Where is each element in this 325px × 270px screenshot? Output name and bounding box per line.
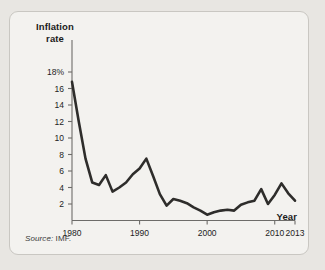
y-axis-tick-labels: 24681012141618% bbox=[47, 67, 64, 209]
chart-plot-area: Inflation rate Year 24681012141618% 1980… bbox=[10, 12, 310, 256]
y-tick-label: 10 bbox=[55, 133, 65, 143]
source-note: Source: IMF. bbox=[25, 234, 71, 243]
y-tick-label: 18% bbox=[47, 67, 64, 77]
source-note-body: IMF. bbox=[53, 234, 71, 243]
x-tick-label: 2013 bbox=[286, 228, 305, 238]
figure-card: Inflation rate Year 24681012141618% 1980… bbox=[9, 11, 309, 255]
y-tick-label: 16 bbox=[55, 84, 65, 94]
y-tick-label: 8 bbox=[59, 150, 64, 160]
x-tick-label: 2010 bbox=[265, 228, 284, 238]
x-axis-tick-labels: 19801990200020102013 bbox=[63, 228, 305, 238]
y-tick-label: 6 bbox=[59, 166, 64, 176]
y-tick-label: 14 bbox=[55, 100, 65, 110]
y-tick-label: 4 bbox=[59, 183, 64, 193]
x-axis-tick-marks bbox=[72, 221, 295, 225]
inflation-line-chart: 24681012141618% 19801990200020102013 bbox=[10, 12, 310, 256]
x-tick-label: 1990 bbox=[130, 228, 149, 238]
inflation-rate-line bbox=[72, 82, 295, 215]
source-note-lead: Source: bbox=[25, 234, 53, 243]
x-tick-label: 2000 bbox=[198, 228, 217, 238]
y-axis-tick-marks bbox=[68, 72, 72, 204]
y-tick-label: 12 bbox=[55, 117, 65, 127]
y-tick-label: 2 bbox=[59, 199, 64, 209]
